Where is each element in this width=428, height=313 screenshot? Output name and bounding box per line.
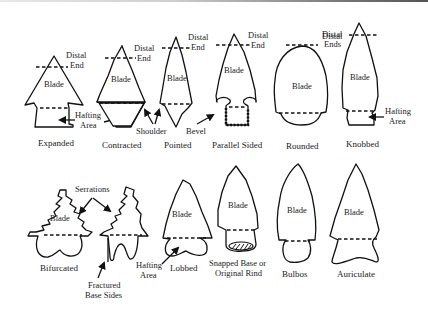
label-hafting: Hafting	[136, 260, 163, 270]
caption-lobbed: Lobbed	[170, 263, 198, 273]
label-end: End	[251, 40, 265, 50]
label-blade: Blade	[287, 205, 307, 215]
label-distal: Distal	[188, 32, 209, 42]
label-distal: Distal	[66, 50, 87, 60]
label-area: Area	[80, 120, 97, 130]
label-distal: Distal	[248, 30, 269, 40]
caption-rounded: Rounded	[286, 141, 319, 151]
label-blade: Blade	[44, 79, 64, 89]
point-auriculate: Blade Auriculate	[330, 164, 379, 279]
caption-knobbed: Knobbed	[346, 139, 379, 149]
label-hafting: Hafting	[385, 106, 412, 116]
label-blade: Blade	[167, 73, 187, 83]
label-blade: Blade	[172, 209, 192, 219]
label-end: End	[70, 60, 84, 70]
label-serrations: Serrations	[75, 184, 109, 194]
point-bulbos: Blade Bulbos	[277, 164, 316, 279]
label-blade: Blade	[350, 72, 370, 82]
point-rounded: Distal Ends Blade Rounded	[274, 29, 343, 151]
label-base-sides: Base Sides	[85, 290, 122, 300]
point-snapped: Blade Snapped Base or Original Rind	[209, 166, 266, 278]
caption-bifurcated: Bifurcated	[40, 263, 78, 273]
caption-bulbos: Bulbos	[282, 269, 308, 279]
point-parallel-sided: Distal End Blade Parallel Sided	[212, 30, 269, 150]
label-area: Area	[389, 116, 406, 126]
label-hafting: Hafting	[75, 110, 102, 120]
label-blade: Blade	[228, 200, 248, 210]
label-snapped: Snapped Base or	[209, 258, 266, 268]
label-blade: Blade	[292, 81, 312, 91]
point-fractured: Fractured Base Sides	[85, 187, 148, 300]
label-end: End	[191, 42, 205, 52]
label-blade: Blade	[50, 213, 70, 223]
bevel-annotation: Bevel	[186, 115, 213, 136]
label-rind: Original Rind	[215, 268, 263, 278]
label-blade: Blade	[111, 74, 131, 84]
caption-auriculate: Auriculate	[337, 269, 375, 279]
label-shoulder: Shoulder	[136, 126, 167, 136]
point-bifurcated: Blade Bifurcated	[28, 190, 92, 273]
label-end: End	[137, 53, 151, 63]
point-lobbed: Blade Hafting Area Lobbed	[136, 180, 212, 280]
label-distal: Distal	[134, 43, 155, 53]
label-blade: Blade	[224, 65, 244, 75]
caption-expanded: Expanded	[38, 138, 74, 148]
serrations-annotation: Serrations	[75, 184, 110, 213]
point-types-diagram: Distal End Blade Hafting Area Expanded D…	[0, 0, 428, 313]
caption-parallel-sided: Parallel Sided	[212, 140, 263, 150]
label-bevel: Bevel	[186, 126, 206, 136]
label-distal: Distal	[322, 31, 343, 41]
caption-contracted: Contracted	[102, 140, 142, 150]
label-fractured: Fractured	[88, 280, 121, 290]
shoulder-annotation: Shoulder	[136, 110, 167, 136]
label-blade: Blade	[344, 207, 364, 217]
label-area: Area	[140, 270, 157, 280]
caption-pointed: Pointed	[164, 140, 192, 150]
